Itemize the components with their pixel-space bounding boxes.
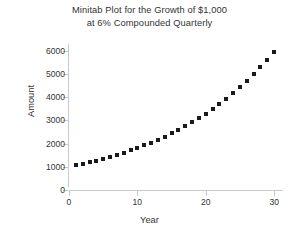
data-point bbox=[197, 116, 201, 120]
data-point bbox=[122, 151, 126, 155]
data-point bbox=[170, 131, 174, 135]
data-point bbox=[115, 153, 119, 157]
data-point bbox=[245, 79, 249, 83]
data-point bbox=[272, 50, 276, 54]
data-point bbox=[217, 102, 221, 106]
data-point bbox=[265, 58, 269, 62]
minitab-scatter-plot: Minitab Plot for the Growth of $1,000 at… bbox=[0, 0, 299, 243]
data-point bbox=[74, 163, 78, 167]
x-tick-label: 10 bbox=[117, 197, 157, 207]
x-tick-mark bbox=[137, 191, 138, 196]
data-point bbox=[204, 112, 208, 116]
x-tick-label: 0 bbox=[49, 197, 89, 207]
x-tick-label: 20 bbox=[186, 197, 226, 207]
data-point bbox=[108, 155, 112, 159]
y-axis-title: Amount bbox=[26, 56, 36, 146]
y-tick-label: 1000 bbox=[25, 162, 65, 172]
data-point bbox=[258, 65, 262, 69]
x-tick-label: 30 bbox=[254, 197, 294, 207]
x-tick-mark bbox=[206, 191, 207, 196]
x-axis-title: Year bbox=[0, 215, 299, 225]
chart-title-line-1: Minitab Plot for the Growth of $1,000 bbox=[0, 4, 299, 17]
data-point bbox=[183, 124, 187, 128]
data-point bbox=[238, 85, 242, 89]
data-point bbox=[101, 157, 105, 161]
data-point bbox=[129, 148, 133, 152]
chart-title-line-2: at 6% Compounded Quarterly bbox=[0, 17, 299, 30]
plot-area bbox=[69, 44, 281, 190]
y-tick-label: 0 bbox=[25, 185, 65, 195]
data-point bbox=[156, 138, 160, 142]
data-point bbox=[231, 91, 235, 95]
x-axis-line bbox=[69, 190, 283, 191]
data-point bbox=[88, 160, 92, 164]
data-point bbox=[252, 72, 256, 76]
x-tick-mark bbox=[274, 191, 275, 196]
data-point bbox=[142, 143, 146, 147]
data-point bbox=[224, 97, 228, 101]
data-point bbox=[149, 141, 153, 145]
data-point bbox=[190, 120, 194, 124]
data-point bbox=[163, 135, 167, 139]
x-tick-mark bbox=[69, 191, 70, 196]
y-tick-label: 6000 bbox=[25, 46, 65, 56]
data-point bbox=[176, 128, 180, 132]
data-point bbox=[211, 107, 215, 111]
chart-title: Minitab Plot for the Growth of $1,000 at… bbox=[0, 4, 299, 29]
data-point bbox=[81, 162, 85, 166]
data-point bbox=[135, 146, 139, 150]
data-point bbox=[94, 159, 98, 163]
